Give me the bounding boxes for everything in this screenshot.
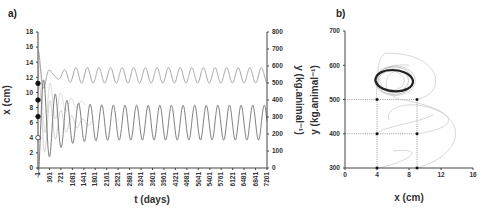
trajectory-line xyxy=(377,150,412,168)
y-tick-right: 300 xyxy=(272,113,283,120)
initial-point-marker xyxy=(416,98,419,101)
y-tick: 700 xyxy=(329,27,340,34)
figure: a)02468101214161801002003004005006007008… xyxy=(0,0,489,214)
x-axis-title: x (cm) xyxy=(394,192,423,203)
y-tick-left: 14 xyxy=(26,59,34,66)
y-tick-left: 12 xyxy=(26,74,34,81)
x-axis-title: t (days) xyxy=(134,194,170,205)
panel-b-label: b) xyxy=(336,8,345,19)
y-tick-right: 0 xyxy=(272,164,276,171)
x-tick: 1081 xyxy=(69,172,76,187)
initial-point-marker xyxy=(36,98,41,103)
initial-point-marker xyxy=(376,98,379,101)
x-tick: 1441 xyxy=(80,172,87,187)
y-tick-left: 18 xyxy=(26,28,34,35)
y-tick-left: 10 xyxy=(26,89,34,96)
y-tick-right: 600 xyxy=(272,62,283,69)
panel-a-label: a) xyxy=(8,8,17,19)
x-tick: 12 xyxy=(437,171,445,178)
series-y-line xyxy=(38,51,267,88)
x-tick: 1 xyxy=(34,172,41,176)
x-tick: 3601 xyxy=(149,172,156,187)
panel-b: b)3004005006007000481216x (cm)y (kg.anim… xyxy=(309,8,477,203)
x-tick: 5041 xyxy=(195,172,202,187)
x-tick: 3961 xyxy=(160,172,167,187)
x-tick: 2881 xyxy=(126,172,133,187)
x-tick: 4681 xyxy=(183,172,190,187)
x-tick: 2161 xyxy=(103,172,110,187)
y-tick: 500 xyxy=(329,96,340,103)
y-tick: 300 xyxy=(329,164,340,171)
y-tick-right: 400 xyxy=(272,96,283,103)
y-tick-right: 500 xyxy=(272,79,283,86)
x-tick: 5401 xyxy=(206,172,213,187)
x-tick: 361 xyxy=(46,172,53,183)
x-tick: 721 xyxy=(57,172,64,183)
y-tick-right: 700 xyxy=(272,45,283,52)
y-tick-left: 16 xyxy=(26,43,34,50)
y-tick-right: 200 xyxy=(272,130,283,137)
initial-point-marker xyxy=(36,135,41,140)
y-axis-right-title: y (kg.animal⁻¹) xyxy=(294,65,305,134)
initial-point-marker xyxy=(416,132,419,135)
x-tick: 2521 xyxy=(114,172,121,187)
x-tick: 3241 xyxy=(137,172,144,187)
initial-point-marker xyxy=(36,81,41,86)
y-tick-left: 2 xyxy=(29,149,33,156)
x-tick: 6841 xyxy=(252,172,259,187)
x-tick: 1801 xyxy=(91,172,98,187)
x-tick: 6121 xyxy=(229,172,236,187)
y-tick-left: 4 xyxy=(29,134,33,141)
x-tick: 8 xyxy=(407,171,411,178)
y-tick-right: 100 xyxy=(272,147,283,154)
initial-point-marker xyxy=(416,167,419,170)
x-tick: 4321 xyxy=(172,172,179,187)
y-axis-left-title: x (cm) xyxy=(1,85,12,114)
y-tick: 600 xyxy=(329,62,340,69)
trajectory-line xyxy=(377,115,433,134)
x-tick: 6481 xyxy=(240,172,247,187)
y-tick-right: 800 xyxy=(272,28,283,35)
limit-cycle xyxy=(375,70,413,91)
y-tick-left: 0 xyxy=(29,164,33,171)
x-tick: 5761 xyxy=(217,172,224,187)
series-x-line xyxy=(38,80,267,178)
chart-canvas: a)02468101214161801002003004005006007008… xyxy=(0,0,489,214)
initial-point-marker xyxy=(36,114,41,119)
x-tick: 4 xyxy=(375,171,379,178)
y-tick-left: 6 xyxy=(29,119,33,126)
y-tick-left: 8 xyxy=(29,104,33,111)
initial-point-marker xyxy=(376,167,379,170)
x-tick: 16 xyxy=(469,171,477,178)
panel-a: a)02468101214161801002003004005006007008… xyxy=(1,8,305,205)
x-tick: 7201 xyxy=(263,172,270,187)
initial-point-marker xyxy=(376,132,379,135)
x-tick: 0 xyxy=(343,171,347,178)
y-axis-title: y (kg.animal⁻¹) xyxy=(309,65,320,134)
y-tick: 400 xyxy=(329,130,340,137)
